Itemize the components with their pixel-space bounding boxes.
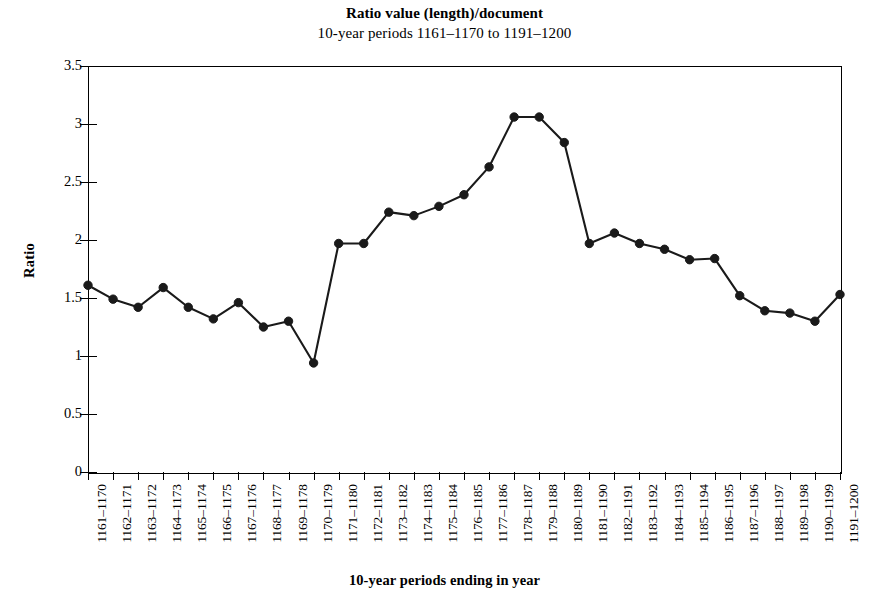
data-point-marker (334, 239, 342, 247)
x-axis-label: 10-year periods ending in year (0, 572, 889, 589)
data-point-marker (585, 239, 593, 247)
x-axis-tick-label: 1178–1187 (520, 484, 536, 580)
y-axis-tick-mark-outer (80, 298, 88, 299)
y-axis-tick-labels: 3.532.521.510.50 (38, 0, 82, 603)
x-axis-tick-mark (88, 472, 89, 480)
x-axis-tick-mark (614, 472, 615, 480)
x-axis-tick-label: 1189–1198 (796, 484, 812, 580)
data-point-marker (685, 256, 693, 264)
y-axis-tick-mark-outer (80, 240, 88, 241)
x-axis-tick-label: 1185–1194 (696, 484, 712, 580)
x-axis-tick-mark (464, 472, 465, 480)
y-axis-tick-label: 2.5 (42, 174, 82, 188)
data-point-marker (560, 138, 568, 146)
x-axis-tick-mark (364, 472, 365, 480)
x-axis-tick-label: 1164–1173 (169, 484, 185, 580)
y-axis-tick-label: 3.5 (42, 58, 82, 72)
x-axis-tick-label: 1180–1189 (570, 484, 586, 580)
data-point-marker (460, 191, 468, 199)
data-point-marker (836, 290, 844, 298)
x-axis-tick-mark (790, 472, 791, 480)
x-axis-tick-mark (138, 472, 139, 480)
x-axis-tick-label: 1181–1190 (595, 484, 611, 580)
y-axis-tick-label: 2 (42, 232, 82, 246)
x-axis-tick-label: 1168–1177 (269, 484, 285, 580)
x-axis-tick-mark (213, 472, 214, 480)
x-axis-tick-mark (740, 472, 741, 480)
x-axis-tick-label: 1170–1179 (320, 484, 336, 580)
x-axis-tick-mark (815, 472, 816, 480)
x-axis-tick-label: 1190–1199 (821, 484, 837, 580)
y-axis-tick-label: 1 (42, 348, 82, 362)
y-axis-label: Ratio (21, 226, 38, 296)
y-axis-tick-label: 1.5 (42, 290, 82, 304)
data-point-marker (510, 113, 518, 121)
data-point-marker (360, 239, 368, 247)
y-axis-tick-label: 3 (42, 116, 82, 130)
data-point-marker (410, 211, 418, 219)
x-axis-tick-mark (639, 472, 640, 480)
x-axis-tick-label: 1187–1196 (746, 484, 762, 580)
chart-subtitle: 10-year periods 1161–1170 to 1191–1200 (0, 23, 889, 43)
x-axis-tick-label: 1179–1188 (545, 484, 561, 580)
data-point-marker (635, 239, 643, 247)
x-axis-tick-label: 1183–1192 (645, 484, 661, 580)
series-line (88, 117, 840, 363)
line-series-plot (88, 66, 840, 472)
x-axis-tick-label: 1191–1200 (846, 484, 862, 580)
data-point-marker (134, 303, 142, 311)
x-axis-tick-mark (765, 472, 766, 480)
data-point-marker (184, 303, 192, 311)
x-axis-tick-label: 1177–1186 (495, 484, 511, 580)
x-axis-tick-label: 1176–1185 (470, 484, 486, 580)
x-axis-tick-mark (188, 472, 189, 480)
x-axis-tick-mark (113, 472, 114, 480)
data-point-marker (485, 163, 493, 171)
data-point-marker (259, 323, 267, 331)
data-point-marker (610, 229, 618, 237)
x-axis-tick-mark (339, 472, 340, 480)
data-point-marker (109, 295, 117, 303)
x-axis-tick-mark (564, 472, 565, 480)
x-axis-tick-label: 1186–1195 (721, 484, 737, 580)
data-point-marker (385, 208, 393, 216)
x-axis-tick-label: 1172–1181 (370, 484, 386, 580)
data-point-marker (535, 113, 543, 121)
y-axis-tick-mark-outer (80, 472, 88, 473)
data-point-marker (209, 315, 217, 323)
x-axis-tick-mark (414, 472, 415, 480)
x-axis-tick-mark (314, 472, 315, 480)
x-axis-tick-label: 1173–1182 (395, 484, 411, 580)
x-axis-tick-label: 1165–1174 (194, 484, 210, 580)
x-axis-tick-mark (489, 472, 490, 480)
x-axis-tick-label: 1171–1180 (345, 484, 361, 580)
x-axis-tick-label: 1188–1197 (771, 484, 787, 580)
x-axis-tick-mark (715, 472, 716, 480)
x-axis-tick-mark (690, 472, 691, 480)
data-point-marker (786, 309, 794, 317)
x-axis-tick-mark (439, 472, 440, 480)
data-point-marker (736, 291, 744, 299)
data-point-marker (309, 359, 317, 367)
x-axis-tick-label: 1161–1170 (94, 484, 110, 580)
data-point-marker (284, 317, 292, 325)
x-axis-tick-mark (389, 472, 390, 480)
x-axis-tick-mark (665, 472, 666, 480)
series-markers (84, 113, 844, 367)
x-axis-tick-label: 1162–1171 (119, 484, 135, 580)
x-axis-tick-label: 1169–1178 (295, 484, 311, 580)
x-axis-tick-label: 1163–1172 (144, 484, 160, 580)
data-point-marker (84, 281, 92, 289)
x-axis-tick-mark (263, 472, 264, 480)
x-axis-tick-mark (163, 472, 164, 480)
x-axis-tick-mark (589, 472, 590, 480)
data-point-marker (159, 283, 167, 291)
x-axis-tick-mark (289, 472, 290, 480)
data-point-marker (660, 245, 668, 253)
chart-title: Ratio value (length)/document (0, 4, 889, 23)
x-axis-tick-label: 1184–1193 (671, 484, 687, 580)
x-axis-tick-label: 1182–1191 (620, 484, 636, 580)
x-axis-tick-label: 1174–1183 (420, 484, 436, 580)
y-axis-tick-mark-outer (80, 66, 88, 67)
x-axis-tick-mark (840, 472, 841, 480)
